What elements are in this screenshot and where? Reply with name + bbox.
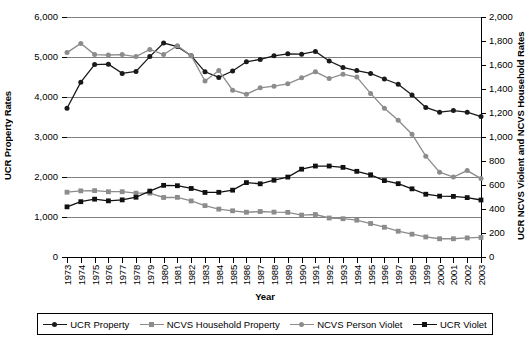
x-axis-tick-label: 1973 — [62, 265, 72, 285]
data-point — [313, 69, 318, 74]
data-point — [313, 49, 318, 54]
data-point — [78, 188, 83, 193]
y-axis-left-tickmark — [62, 177, 67, 178]
y-axis-right-tick-label: 800 — [489, 156, 530, 166]
data-point — [327, 164, 332, 169]
x-axis-title: Year — [0, 291, 530, 302]
data-point — [230, 188, 235, 193]
x-axis-tickmark — [398, 258, 399, 263]
x-axis-tickmark — [136, 258, 137, 263]
data-point — [230, 88, 235, 93]
x-axis-tick-label: 1974 — [76, 265, 86, 285]
x-axis-tick-label: 1994 — [352, 265, 362, 285]
x-axis-tick-label: 1978 — [131, 265, 141, 285]
legend-item-3[interactable]: UCR Violet — [413, 319, 487, 330]
x-axis-tick-label: 1986 — [241, 265, 251, 285]
data-point — [106, 62, 111, 67]
legend-marker-circle — [52, 322, 57, 327]
data-point — [479, 198, 484, 203]
x-axis-tickmark — [81, 258, 82, 263]
y-axis-left-tickmark — [62, 57, 67, 58]
data-point — [216, 190, 221, 195]
y-axis-left-tickmark — [62, 97, 67, 98]
x-axis-tickmark — [453, 258, 454, 263]
data-point — [354, 169, 359, 174]
y-axis-right-tickmark — [481, 89, 486, 90]
x-axis-tick-label: 1983 — [200, 265, 210, 285]
data-point — [120, 71, 125, 76]
data-point — [189, 186, 194, 191]
data-point — [437, 236, 442, 241]
data-point — [382, 178, 387, 183]
data-point — [216, 207, 221, 212]
x-axis-tickmark — [481, 258, 482, 263]
data-point — [65, 50, 70, 55]
x-axis-tick-label: 1990 — [297, 265, 307, 285]
data-point — [134, 69, 139, 74]
x-axis-tick-label: 2003 — [476, 265, 486, 285]
data-point — [451, 175, 456, 180]
x-axis-tickmark — [357, 258, 358, 263]
legend-item-0[interactable]: UCR Property — [43, 319, 129, 330]
legend-item-1[interactable]: NCVS Household Property — [140, 319, 280, 330]
legend-label: NCVS Household Property — [167, 319, 280, 330]
data-point — [258, 85, 263, 90]
series-line-3 — [67, 166, 481, 207]
data-point — [175, 183, 180, 188]
data-point — [189, 199, 194, 204]
data-point — [106, 53, 111, 58]
legend-swatch-0 — [43, 320, 67, 329]
data-point — [299, 167, 304, 172]
data-point — [134, 195, 139, 200]
data-point — [161, 52, 166, 57]
x-axis-tick-label: 1992 — [324, 265, 334, 285]
data-point — [451, 236, 456, 241]
x-axis-tick-label: 2001 — [448, 265, 458, 285]
x-axis-tickmark — [233, 258, 234, 263]
x-axis-tick-label: 1984 — [214, 265, 224, 285]
x-axis-tickmark — [260, 258, 261, 263]
data-point — [423, 154, 428, 159]
data-point — [313, 164, 318, 169]
chart-legend: UCR PropertyNCVS Household PropertyNCVS … — [37, 313, 493, 335]
x-axis-tick-label: 1975 — [90, 265, 100, 285]
y-axis-right-tick-label: 0 — [489, 252, 530, 262]
x-axis-tick-label: 1988 — [269, 265, 279, 285]
data-point — [161, 183, 166, 188]
x-axis-tickmark — [329, 258, 330, 263]
x-axis-tickmark — [108, 258, 109, 263]
data-point — [65, 204, 70, 209]
data-point — [258, 209, 263, 214]
series-line-2 — [67, 43, 481, 178]
data-point — [285, 210, 290, 215]
legend-item-2[interactable]: NCVS Person Violet — [290, 319, 402, 330]
data-point — [368, 91, 373, 96]
y-axis-right-tick-label: 1,800 — [489, 36, 530, 46]
y-axis-right-tickmark — [481, 113, 486, 114]
data-point — [78, 80, 83, 85]
data-point — [382, 225, 387, 230]
x-axis-tickmark — [219, 258, 220, 263]
x-axis-tick-label: 1997 — [393, 265, 403, 285]
y-axis-left-tick-label: 2,000 — [14, 172, 58, 182]
data-point — [396, 118, 401, 123]
data-point — [396, 229, 401, 234]
data-point — [465, 110, 470, 115]
data-point — [147, 47, 152, 52]
y-axis-left-tickmark — [62, 137, 67, 138]
data-point — [216, 68, 221, 73]
data-point — [161, 41, 166, 46]
data-point — [147, 54, 152, 59]
data-point — [106, 198, 111, 203]
data-point — [161, 195, 166, 200]
data-point — [382, 77, 387, 82]
plot-area — [67, 17, 481, 257]
data-point — [78, 41, 83, 46]
x-axis-tickmark — [467, 258, 468, 263]
data-point — [423, 235, 428, 240]
x-axis-tickmark — [205, 258, 206, 263]
data-point — [313, 212, 318, 217]
data-point — [368, 71, 373, 76]
data-point — [244, 92, 249, 97]
data-point — [258, 57, 263, 62]
